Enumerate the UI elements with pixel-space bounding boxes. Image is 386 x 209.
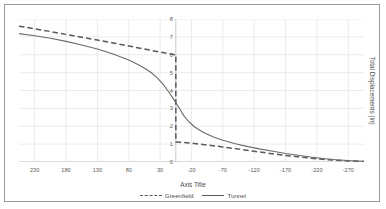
chart-canvas <box>19 19 364 162</box>
x-axis-title: Axis Title <box>5 181 381 188</box>
plot-area <box>19 19 364 162</box>
y-tick-label: 1 <box>161 141 173 147</box>
y-tick-label: 4 <box>161 88 173 94</box>
y-tick-label: 3 <box>161 105 173 111</box>
legend-label: Greenfield <box>165 192 194 199</box>
y-tick-label: 6 <box>161 52 173 58</box>
legend-swatch-dashed-icon <box>140 195 162 196</box>
x-tick-label: 30 <box>147 167 173 173</box>
y-tick-label: 8 <box>161 16 173 22</box>
x-tick-label: 180 <box>53 167 79 173</box>
x-tick-label: 80 <box>116 167 142 173</box>
x-tick-label: -170 <box>273 167 299 173</box>
y-tick-label: 7 <box>161 34 173 40</box>
chart-legend: Greenfield Tunnel <box>5 192 381 199</box>
legend-label: Tunnel <box>227 192 246 199</box>
x-tick-label: -220 <box>304 167 330 173</box>
x-tick-label: -270 <box>335 167 361 173</box>
y-tick-label: 2 <box>161 123 173 129</box>
x-tick-label: -70 <box>210 167 236 173</box>
x-tick-label: -20 <box>179 167 205 173</box>
x-tick-label: 230 <box>22 167 48 173</box>
legend-swatch-solid-icon <box>202 195 224 196</box>
chart-figure: 012345678 2301801308030-20-70-120-170-22… <box>4 4 380 202</box>
x-tick-label: 130 <box>84 167 110 173</box>
y-axis-title: Total Displacements (in) <box>367 19 377 162</box>
y-tick-label: 0 <box>161 159 173 165</box>
x-tick-label: -120 <box>241 167 267 173</box>
legend-item-greenfield[interactable]: Greenfield <box>140 192 194 199</box>
y-tick-label: 5 <box>161 70 173 76</box>
y-axis-title-text: Total Displacements (in) <box>369 56 376 124</box>
legend-item-tunnel[interactable]: Tunnel <box>202 192 246 199</box>
